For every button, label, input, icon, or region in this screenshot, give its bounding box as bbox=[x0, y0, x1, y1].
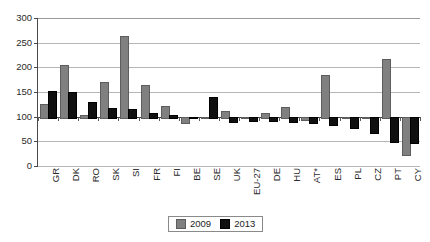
x-tick-mark bbox=[38, 117, 39, 121]
x-tick-label-FI: FI bbox=[172, 168, 182, 176]
x-tick-label-CY: CY bbox=[413, 168, 423, 181]
bar-DE-2013 bbox=[269, 117, 278, 122]
x-tick-label-UK: UK bbox=[232, 168, 242, 181]
bar-EU-27-2013 bbox=[249, 117, 258, 122]
x-tick-label-DE: DE bbox=[272, 168, 282, 181]
bar-group bbox=[340, 18, 360, 166]
bar-group bbox=[259, 18, 279, 166]
x-tick-mark bbox=[159, 117, 160, 121]
x-tick-mark bbox=[98, 117, 99, 121]
bar-SE-2013 bbox=[209, 97, 218, 119]
bar-chart: 050100150200250300 GRDKROSKSIFRFIBESEUKE… bbox=[0, 0, 430, 242]
x-tick-label-SI: SI bbox=[131, 168, 141, 177]
x-tick-mark bbox=[58, 117, 59, 121]
bar-BE-2013 bbox=[189, 117, 198, 120]
x-tick-mark bbox=[239, 117, 240, 121]
x-tick-label-PL: PL bbox=[353, 168, 363, 180]
y-tick-label: 200 bbox=[4, 63, 32, 73]
bar-group bbox=[179, 18, 199, 166]
gray-square-icon bbox=[176, 219, 186, 229]
y-tick-label: 50 bbox=[4, 137, 32, 147]
x-tick-label-PT: PT bbox=[393, 168, 403, 180]
bar-CZ-2013 bbox=[370, 117, 379, 135]
x-tick-mark bbox=[259, 117, 260, 121]
bar-SK-2013 bbox=[108, 108, 117, 118]
y-tick-label: 0 bbox=[4, 161, 32, 171]
y-tick-label: 300 bbox=[4, 13, 32, 23]
x-axis-labels: GRDKROSKSIFRFIBESEUKEU-27DEHUAT*ESPLCZPT… bbox=[37, 168, 419, 210]
bar-PL-2013 bbox=[350, 117, 359, 129]
x-tick-mark bbox=[279, 117, 280, 121]
bar-group bbox=[279, 18, 299, 166]
bar-SI-2009 bbox=[120, 36, 129, 118]
x-tick-label-SE: SE bbox=[212, 168, 222, 181]
bar-group bbox=[360, 18, 380, 166]
y-tick-label: 100 bbox=[4, 112, 32, 122]
chart-legend: 20092013 bbox=[168, 216, 263, 232]
y-tick-label: 150 bbox=[4, 87, 32, 97]
x-tick-label-AT*: AT* bbox=[312, 168, 322, 183]
x-tick-mark bbox=[179, 117, 180, 121]
bar-RO-2013 bbox=[88, 102, 97, 119]
plot-area bbox=[37, 18, 419, 166]
x-tick-label-ES: ES bbox=[333, 168, 343, 181]
bar-group bbox=[139, 18, 159, 166]
bar-FI-2013 bbox=[169, 115, 178, 119]
x-tick-label-DK: DK bbox=[71, 168, 81, 181]
bar-group bbox=[78, 18, 98, 166]
x-tick-mark bbox=[199, 117, 200, 121]
bar-ES-2009 bbox=[321, 75, 330, 119]
bar-DK-2013 bbox=[68, 92, 77, 119]
bar-AT*-2013 bbox=[309, 117, 318, 124]
bar-group bbox=[400, 18, 420, 166]
bar-group bbox=[58, 18, 78, 166]
legend-label: 2013 bbox=[234, 219, 255, 229]
bar-PT-2013 bbox=[390, 117, 399, 144]
x-tick-mark bbox=[380, 117, 381, 121]
legend-entry-2013: 2013 bbox=[220, 219, 255, 229]
x-tick-label-HU: HU bbox=[292, 168, 302, 182]
x-tick-label-EU-27: EU-27 bbox=[252, 168, 262, 195]
x-tick-mark bbox=[299, 117, 300, 121]
x-tick-mark bbox=[360, 117, 361, 121]
x-tick-label-RO: RO bbox=[91, 168, 101, 182]
y-tick-mark bbox=[34, 166, 38, 167]
x-tick-label-BE: BE bbox=[192, 168, 202, 181]
gridline bbox=[38, 166, 420, 167]
legend-label: 2009 bbox=[190, 219, 211, 229]
bar-FR-2013 bbox=[149, 113, 158, 119]
legend-entry-2009: 2009 bbox=[176, 219, 211, 229]
y-tick-label: 250 bbox=[4, 38, 32, 48]
bar-group bbox=[299, 18, 319, 166]
x-tick-mark bbox=[118, 117, 119, 121]
bar-group bbox=[239, 18, 259, 166]
x-tick-label-SK: SK bbox=[111, 168, 121, 181]
x-tick-mark bbox=[319, 117, 320, 121]
bar-group bbox=[219, 18, 239, 166]
x-tick-label-GR: GR bbox=[51, 168, 61, 182]
black-square-icon bbox=[220, 219, 230, 229]
x-tick-label-CZ: CZ bbox=[373, 168, 383, 181]
bar-group bbox=[319, 18, 339, 166]
bar-PT-2009 bbox=[382, 59, 391, 118]
bar-HU-2013 bbox=[289, 117, 298, 123]
bar-ES-2013 bbox=[329, 117, 338, 126]
bar-group bbox=[380, 18, 400, 166]
x-tick-mark bbox=[139, 117, 140, 121]
bar-SI-2013 bbox=[128, 109, 137, 118]
x-tick-mark bbox=[340, 117, 341, 121]
bar-group bbox=[118, 18, 138, 166]
bar-group bbox=[98, 18, 118, 166]
bar-GR-2013 bbox=[48, 91, 57, 119]
bar-group bbox=[38, 18, 58, 166]
bar-CY-2013 bbox=[410, 117, 419, 145]
x-tick-mark bbox=[78, 117, 79, 121]
x-tick-mark bbox=[219, 117, 220, 121]
x-tick-label-FR: FR bbox=[152, 168, 162, 181]
bar-group bbox=[159, 18, 179, 166]
bar-UK-2013 bbox=[229, 117, 238, 123]
x-tick-mark bbox=[400, 117, 401, 121]
bar-group bbox=[199, 18, 219, 166]
x-tick-mark bbox=[420, 117, 421, 121]
